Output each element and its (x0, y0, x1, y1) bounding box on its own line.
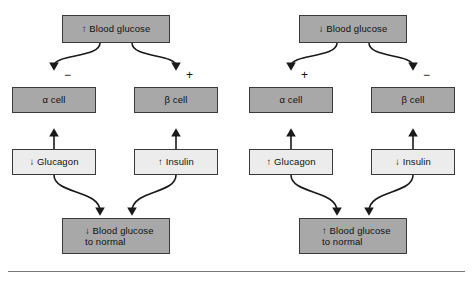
branch-sign-left: − (64, 69, 71, 81)
branch-sign-right: + (186, 69, 193, 81)
top-node-blood-glucose: ↑ Blood glucose (62, 15, 170, 43)
branch-sign-right: − (423, 69, 430, 81)
insulin-node: ↓ Insulin (371, 149, 455, 175)
beta-cell-node: β cell (134, 87, 218, 113)
low-glucose-panel: ↓ Blood glucose + − α cell β cell ↑ Gluc… (237, 0, 473, 260)
bottom-node-blood-glucose-to-normal: ↓ Blood glucose to normal (62, 218, 170, 254)
bottom-node-line1: ↓ Blood glucose (63, 225, 169, 237)
insulin-node: ↑ Insulin (134, 149, 218, 175)
high-glucose-panel: ↑ Blood glucose − + α cell β cell ↓ Gluc… (0, 0, 236, 260)
bottom-node-blood-glucose-to-normal: ↑ Blood glucose to normal (299, 218, 407, 254)
alpha-cell-node: α cell (12, 87, 96, 113)
beta-cell-node: β cell (371, 87, 455, 113)
blood-glucose-feedback-figure: ↑ Blood glucose − + α cell β cell ↓ Gluc… (0, 0, 473, 284)
bottom-node-line2: to normal (300, 236, 406, 248)
branch-sign-left: + (301, 69, 308, 81)
glucagon-node: ↓ Glucagon (12, 149, 96, 175)
alpha-cell-node: α cell (249, 87, 333, 113)
bottom-node-line2: to normal (63, 236, 169, 248)
bottom-node-line1: ↑ Blood glucose (300, 225, 406, 237)
glucagon-node: ↑ Glucagon (249, 149, 333, 175)
top-node-blood-glucose: ↓ Blood glucose (299, 15, 407, 43)
figure-bottom-rule (8, 271, 465, 272)
